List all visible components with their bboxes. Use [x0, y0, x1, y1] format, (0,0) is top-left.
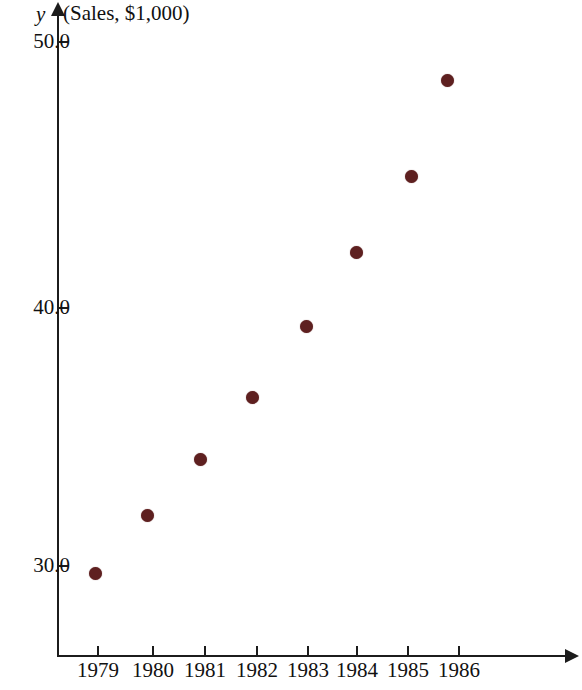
x-axis-tick-mark: [152, 646, 154, 656]
x-axis-tick-mark: [458, 646, 460, 656]
data-point: [89, 567, 102, 580]
x-axis-arrowhead-icon: [565, 649, 579, 663]
x-axis-line: [57, 655, 567, 657]
data-point: [441, 74, 454, 87]
scatter-chart: y (Sales, $1,000) 50.040.030.0 197919801…: [0, 0, 582, 690]
x-axis-tick-mark: [407, 646, 409, 656]
y-axis-tick-label: 40.0: [18, 297, 70, 318]
data-point: [141, 509, 154, 522]
x-axis-tick-mark: [97, 646, 99, 656]
data-point: [405, 170, 418, 183]
x-axis-tick-label: 1981: [175, 660, 235, 681]
x-axis-tick-label: 1986: [429, 660, 489, 681]
data-point: [194, 453, 207, 466]
x-axis-tick-mark: [204, 646, 206, 656]
x-axis-tick-mark: [356, 646, 358, 656]
data-point: [246, 391, 259, 404]
y-axis-tick-label: 30.0: [18, 555, 70, 576]
x-axis-tick-mark: [256, 646, 258, 656]
data-point: [300, 320, 313, 333]
data-point: [350, 246, 363, 259]
y-axis-unit-label: (Sales, $1,000): [63, 3, 190, 24]
x-axis-tick-label: 1979: [68, 660, 128, 681]
y-axis-tick-label: 50.0: [18, 31, 70, 52]
x-axis-tick-mark: [307, 646, 309, 656]
x-axis-tick-label: 1980: [123, 660, 183, 681]
y-axis-variable-label: y: [36, 4, 45, 25]
